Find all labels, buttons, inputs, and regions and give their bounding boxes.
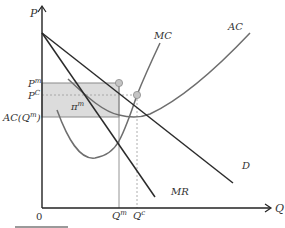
x-axis-label: Q (275, 202, 284, 215)
monopoly-point (115, 79, 122, 86)
origin-label: 0 (36, 211, 42, 222)
mr-label: MR (170, 186, 189, 197)
competitive-point (133, 91, 140, 98)
monopoly-diagram: P Q 0 Pm PC AC(Qm) Qm Qc MC AC D MR πm (0, 0, 285, 228)
ac-label: AC (227, 21, 243, 32)
q-competitive-label: Qc (133, 209, 145, 221)
p-monopoly-label: Pm (27, 77, 42, 89)
p-competitive-label: PC (27, 89, 41, 101)
ac-qm-label: AC(Qm) (2, 111, 41, 123)
mc-label: MC (153, 30, 172, 41)
demand-label: D (241, 160, 250, 171)
q-monopoly-label: Qm (112, 209, 127, 221)
y-axis-label: P (29, 7, 38, 20)
caption-bar (15, 226, 68, 228)
